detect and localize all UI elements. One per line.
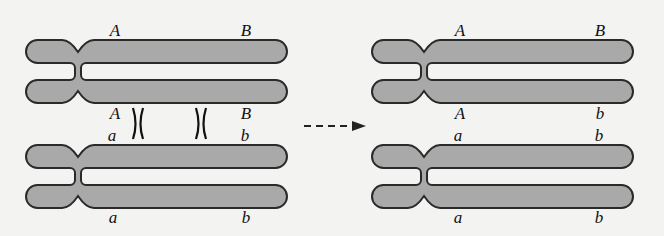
label-after-bottom-upper-2: b [595,127,604,144]
label-before-top-lower-2: B [241,105,251,122]
label-after-top-upper-2: B [595,22,605,39]
label-after-top-lower-1: A [455,105,465,122]
label-before-top-upper-2: B [241,22,251,39]
chromosome-after-top [372,40,633,103]
label-before-top-upper-1: A [110,22,120,39]
label-before-bottom-lower-2: b [242,209,251,226]
crossover-mark-2 [196,108,206,139]
label-after-top-lower-2: b [596,105,605,122]
label-before-bottom-upper-1: a [108,127,117,144]
chromosome-before-bottom [26,145,287,208]
label-after-bottom-lower-1: a [454,209,463,226]
chromosome-before-top [26,40,287,103]
crossing-over-diagram [0,0,664,236]
label-after-bottom-lower-2: b [595,209,604,226]
label-after-bottom-upper-1: a [454,127,463,144]
label-before-top-lower-1: A [110,105,120,122]
label-before-bottom-upper-2: b [241,127,250,144]
dashed-arrow-icon [304,121,366,131]
chromosome-after-bottom [372,145,633,208]
label-after-top-upper-1: A [455,22,465,39]
label-before-bottom-lower-1: a [109,209,118,226]
crossover-mark-1 [133,108,143,139]
